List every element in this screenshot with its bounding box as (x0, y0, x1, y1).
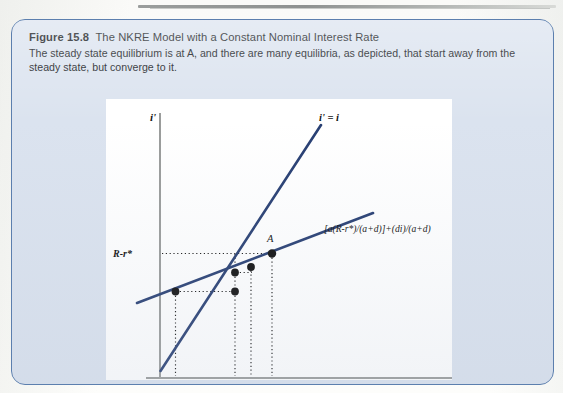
line-label-formula: [a(R-r*)/(a+d)]+(di)/(a+d) (324, 223, 431, 235)
y-axis-label: i' (150, 111, 156, 123)
chart-svg: i' i R-r* i0 i1 i2 R-r* i' = i [a(R-r*)/… (106, 99, 452, 380)
figure-caption: Figure 15.8 The NKRE Model with a Consta… (29, 30, 537, 74)
caption-line-2: steady state, but converge to it. (29, 61, 177, 73)
page-top-rule-secondary (150, 8, 550, 9)
line-label-45-degree: i' = i (319, 112, 339, 123)
data-point-p2 (247, 263, 255, 271)
figure-title: The NKRE Model with a Constant Nominal I… (95, 31, 379, 43)
data-point-p1 (231, 269, 239, 277)
figure-caption-body: The steady state equilibrium is at A, an… (29, 47, 537, 74)
data-point-p0 (172, 288, 180, 296)
chart-panel: i' i R-r* i0 i1 i2 R-r* i' = i [a(R-r*)/… (106, 99, 452, 380)
figure-title-line: Figure 15.8 The NKRE Model with a Consta… (29, 30, 537, 45)
figure-container: Figure 15.8 The NKRE Model with a Consta… (11, 19, 554, 385)
data-point-equilibrium-A (268, 249, 276, 257)
data-point-p1-on-45 (231, 288, 239, 296)
y-tick-label-Rminusrstar: R-r* (112, 248, 133, 259)
equilibrium-point-label: A (266, 233, 274, 244)
caption-line-1: The steady state equilibrium is at A, an… (29, 47, 515, 59)
line-45-degree (161, 125, 322, 371)
figure-number: Figure 15.8 (29, 31, 89, 43)
